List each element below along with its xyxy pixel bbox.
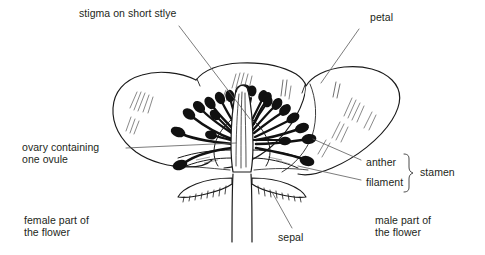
label-filament: filament: [366, 176, 403, 188]
label-female-part-line1: female part of: [24, 214, 89, 226]
petal-center: [196, 63, 306, 86]
label-ovary-line2: one ovule: [22, 153, 68, 165]
label-stigma: stigma on short stlye: [79, 7, 176, 19]
flower-anatomy-diagram: stigma on short stlye petal ovary contai…: [0, 0, 485, 255]
sepal-right: [252, 178, 306, 197]
sepals-group: [178, 178, 306, 197]
sepal-left: [178, 178, 232, 197]
label-male-part-line1: male part of: [375, 214, 431, 226]
label-anther: anther: [366, 156, 396, 168]
leader-sepal: [272, 192, 292, 228]
label-ovary-line1: ovary containing: [22, 141, 99, 153]
label-sepal: sepal: [278, 231, 303, 243]
stem-right-edge: [251, 174, 252, 242]
stem-left-edge: [232, 174, 233, 242]
stem: [232, 174, 252, 242]
label-petal: petal: [370, 11, 393, 23]
label-female-part-line2: the flower: [24, 226, 70, 238]
label-male-part-line2: the flower: [375, 226, 421, 238]
label-stamen: stamen: [420, 166, 455, 178]
stamen-brace: [404, 154, 413, 192]
